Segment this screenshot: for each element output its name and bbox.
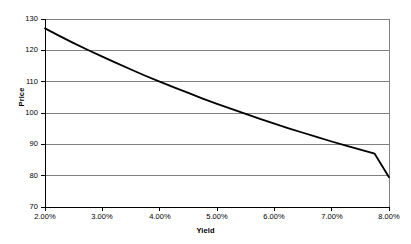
y-tick-label-80: 80 (12, 172, 38, 180)
y-tick-label-90: 90 (12, 140, 38, 148)
y-tick-label-130: 130 (12, 15, 38, 23)
x-axis-title: Yield (0, 226, 411, 235)
chart-canvas (0, 0, 411, 244)
x-tick-label-5: 5.00% (194, 213, 240, 221)
x-tick-label-8: 8.00% (366, 213, 411, 221)
x-tick-label-2: 2.00% (22, 213, 68, 221)
y-axis-title: Price (17, 77, 27, 117)
x-tick-label-7: 7.00% (309, 213, 355, 221)
y-tick-label-70: 70 (12, 203, 38, 211)
y-tick-label-120: 120 (12, 46, 38, 54)
x-tick-label-6: 6.00% (251, 213, 297, 221)
x-axis-ticks (45, 207, 389, 211)
x-tick-label-3: 3.00% (79, 213, 125, 221)
x-tick-label-4: 4.00% (137, 213, 183, 221)
price-yield-chart: 130 120 110 100 90 80 70 2.00% 3.00% 4.0… (0, 0, 411, 244)
y-axis-ticks (41, 19, 45, 207)
